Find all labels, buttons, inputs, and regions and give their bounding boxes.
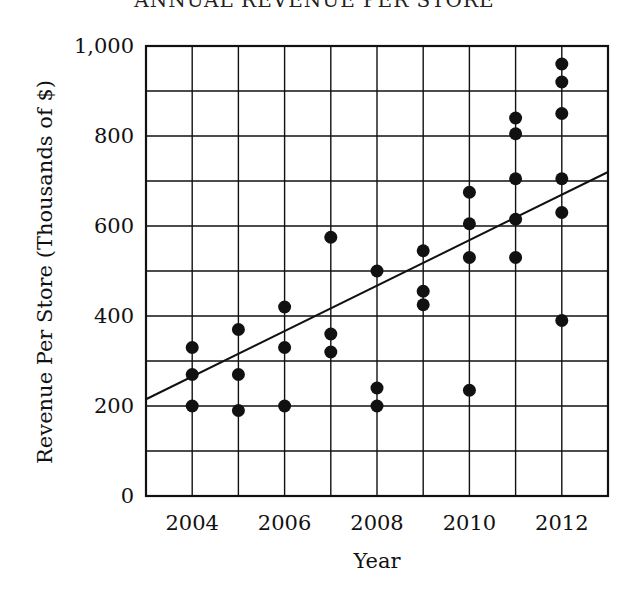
data-point [186, 341, 199, 354]
data-point [417, 285, 430, 298]
x-tick-label: 2010 [443, 511, 496, 535]
data-point [324, 231, 337, 244]
data-point [371, 400, 384, 413]
data-point [186, 368, 199, 381]
data-point [509, 251, 522, 264]
data-point [371, 382, 384, 395]
data-point [509, 112, 522, 125]
y-axis-ticks: 02004006008001,000 [74, 34, 134, 508]
data-point [417, 298, 430, 311]
y-axis-label: Revenue Per Store (Thousands of $) [33, 80, 57, 464]
data-point [509, 213, 522, 226]
data-point [324, 346, 337, 359]
x-axis-ticks: 20042006200820102012 [165, 511, 588, 535]
data-point [555, 206, 568, 219]
data-point [555, 172, 568, 185]
y-tick-label: 200 [94, 394, 134, 418]
scatter-chart: 02004006008001,000 20042006200820102012 … [0, 0, 629, 595]
y-tick-label: 0 [121, 484, 134, 508]
data-point [186, 400, 199, 413]
data-point [232, 368, 245, 381]
data-point [278, 341, 291, 354]
y-tick-label: 800 [94, 124, 134, 148]
data-point [509, 127, 522, 140]
y-tick-label: 1,000 [74, 34, 134, 58]
data-point [324, 328, 337, 341]
y-tick-label: 600 [94, 214, 134, 238]
data-point [463, 251, 476, 264]
data-point [555, 107, 568, 120]
x-axis-label: Year [352, 549, 401, 573]
data-point [555, 314, 568, 327]
data-point [232, 323, 245, 336]
data-point [463, 384, 476, 397]
data-point [555, 58, 568, 71]
data-point [555, 76, 568, 89]
data-point [371, 265, 384, 278]
data-point [463, 186, 476, 199]
data-point [509, 172, 522, 185]
data-point [278, 301, 291, 314]
data-point [232, 404, 245, 417]
data-point [278, 400, 291, 413]
y-tick-label: 400 [94, 304, 134, 328]
x-tick-label: 2004 [165, 511, 218, 535]
data-point [417, 244, 430, 257]
x-tick-label: 2006 [258, 511, 311, 535]
data-point [463, 217, 476, 230]
x-tick-label: 2008 [350, 511, 403, 535]
x-tick-label: 2012 [535, 511, 588, 535]
